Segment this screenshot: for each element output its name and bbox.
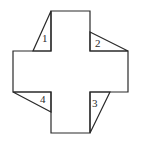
triangle-2-label: 2 [95,37,101,49]
triangle-4: 4 [13,92,51,112]
cross-outline [13,11,128,133]
triangle-1: 1 [33,11,51,51]
triangle-4-label: 4 [40,93,46,105]
triangle-3: 3 [90,92,110,133]
triangle-1-label: 1 [42,32,48,44]
cross-diagram: 1 2 3 4 [0,0,144,142]
triangle-2: 2 [90,32,128,51]
triangle-3-label: 3 [92,97,98,109]
triangle-1-outline [33,11,51,51]
